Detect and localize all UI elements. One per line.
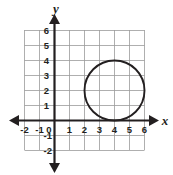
x-tick-label-5: 5	[127, 124, 133, 135]
x-axis-label: x	[161, 113, 169, 128]
coordinate-graph-svg: y x -2 -1 0 1 2 3 4 5 6 6 5 4 3 2 1 -1 -…	[0, 0, 173, 175]
x-tick-label--2: -2	[20, 124, 28, 135]
x-axis-arrow-right	[149, 115, 159, 126]
y-tick-label-4: 4	[44, 55, 50, 66]
x-tick-labels: -2 -1 0 1 2 3 4 5 6	[20, 124, 147, 135]
y-tick-label--1: -1	[44, 130, 53, 141]
x-tick-label-4: 4	[112, 124, 118, 135]
x-tick-label-6: 6	[142, 124, 147, 135]
y-axis-arrow-down	[49, 163, 60, 173]
x-tick-label-1: 1	[67, 124, 73, 135]
y-tick-label-2: 2	[44, 85, 49, 96]
y-tick-label-1: 1	[44, 100, 50, 111]
y-tick-label-6: 6	[44, 25, 49, 36]
y-tick-label--2: -2	[44, 145, 52, 156]
x-tick-label-2: 2	[82, 124, 87, 135]
x-axis-arrow-left	[9, 115, 19, 126]
y-tick-label-5: 5	[44, 40, 50, 51]
x-tick-label-3: 3	[97, 124, 102, 135]
coordinate-graph-figure: y x -2 -1 0 1 2 3 4 5 6 6 5 4 3 2 1 -1 -…	[0, 0, 173, 175]
y-axis-label: y	[51, 1, 59, 16]
y-tick-label-3: 3	[44, 70, 49, 81]
